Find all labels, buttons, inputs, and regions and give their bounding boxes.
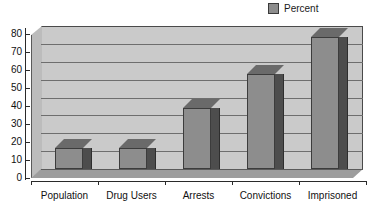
- y-tick-label-0: 0: [0, 173, 22, 183]
- bar-top-drug-users: [119, 139, 156, 148]
- bar-side-arrests: [211, 108, 220, 169]
- bar-face-drug-users: [119, 148, 147, 169]
- x-label-drug-users: Drug Users: [98, 190, 165, 202]
- bar-face-arrests: [183, 108, 211, 169]
- bar-top-population: [55, 139, 92, 148]
- bar-face-convictions: [247, 74, 275, 169]
- bar-top-convictions: [247, 65, 284, 74]
- plot-area: [31, 26, 363, 178]
- bar-top-imprisoned: [311, 28, 348, 37]
- y-tick-label-60: 60: [0, 65, 22, 75]
- x-axis-line: [31, 181, 367, 182]
- legend-label-percent: Percent: [284, 3, 318, 14]
- x-tick-mark-2: [165, 181, 166, 185]
- y-tick-label-80: 80: [0, 29, 22, 39]
- x-label-imprisoned: Imprisoned: [299, 190, 366, 202]
- y-tick-mark-80: [26, 34, 30, 35]
- x-label-convictions: Convictions: [232, 190, 299, 202]
- plot-floor: [31, 169, 363, 178]
- x-label-population: Population: [31, 190, 98, 202]
- y-tick-label-40: 40: [0, 101, 22, 111]
- bar-convictions: [247, 26, 285, 169]
- bar-drug-users: [119, 26, 157, 169]
- x-label-arrests: Arrests: [165, 190, 232, 202]
- legend-swatch-percent: [268, 3, 279, 14]
- bar-side-population: [83, 148, 92, 169]
- bar-chart: Percent 80 70 60 50 40 30 20 10 0: [0, 0, 371, 214]
- y-tick-mark-30: [26, 124, 30, 125]
- bar-top-arrests: [183, 99, 220, 108]
- y-tick-label-30: 30: [0, 119, 22, 129]
- bar-arrests: [183, 26, 221, 169]
- y-tick-label-20: 20: [0, 137, 22, 147]
- y-tick-mark-10: [26, 160, 30, 161]
- y-tick-mark-70: [26, 52, 30, 53]
- y-tick-mark-60: [26, 70, 30, 71]
- y-tick-mark-20: [26, 142, 30, 143]
- y-tick-mark-0: [26, 178, 30, 179]
- bar-side-drug-users: [147, 148, 156, 169]
- x-tick-mark-0: [31, 181, 32, 185]
- bar-side-convictions: [275, 74, 284, 169]
- x-tick-mark-3: [232, 181, 233, 185]
- bar-side-imprisoned: [339, 37, 348, 169]
- x-tick-mark-4: [299, 181, 300, 185]
- y-tick-mark-40: [26, 106, 30, 107]
- plot-floor-line: [41, 169, 363, 170]
- bar-face-population: [55, 148, 83, 169]
- x-tick-mark-1: [98, 181, 99, 185]
- y-axis-line: [25, 28, 26, 180]
- y-tick-label-50: 50: [0, 83, 22, 93]
- y-tick-label-10: 10: [0, 155, 22, 165]
- y-tick-label-70: 70: [0, 47, 22, 57]
- y-tick-mark-50: [26, 88, 30, 89]
- bar-face-imprisoned: [311, 37, 339, 169]
- chart-legend: Percent: [268, 3, 318, 14]
- plot-left-wall-edge: [31, 35, 32, 178]
- x-tick-mark-5: [366, 181, 367, 185]
- bar-population: [55, 26, 93, 169]
- bar-imprisoned: [311, 26, 349, 169]
- plot-left-wall: [31, 26, 42, 178]
